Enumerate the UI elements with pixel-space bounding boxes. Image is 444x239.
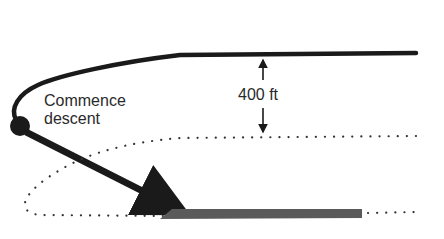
altitude-label: 400 ft <box>236 86 280 104</box>
commence-line-1: Commence <box>44 92 126 110</box>
descent-arrow <box>26 132 178 209</box>
runway-extension-dotted <box>368 212 418 213</box>
commence-line-2: descent <box>44 110 126 128</box>
runway <box>160 209 362 219</box>
commence-descent-label: Commence descent <box>44 92 126 128</box>
traffic-pattern-dotted <box>25 136 416 216</box>
